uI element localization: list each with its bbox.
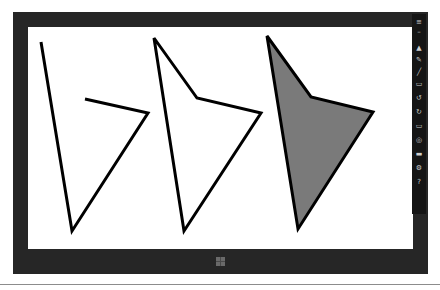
redo-icon[interactable]: ↻: [415, 108, 423, 116]
open-polyline-shape[interactable]: [41, 42, 148, 231]
outlined-polygon-shape[interactable]: [154, 38, 261, 231]
folder-icon[interactable]: ▬: [415, 150, 423, 158]
pen-icon[interactable]: ✎: [415, 56, 423, 64]
shapes-layer: [28, 27, 413, 249]
pointer-icon[interactable]: ▲: [415, 44, 423, 52]
logo-pane: [221, 257, 225, 261]
line-icon[interactable]: ╱: [415, 68, 423, 76]
logo-pane: [216, 257, 220, 261]
minimize-icon[interactable]: –: [415, 28, 423, 36]
shape-icon[interactable]: ▭: [415, 80, 423, 88]
undo-icon[interactable]: ↺: [415, 94, 423, 102]
side-toolbar: ≡ – ▲ ✎ ╱ ▭ ↺ ↻ ▭ ◎ ▬ ⚙ ?: [412, 14, 426, 214]
menu-icon[interactable]: ≡: [415, 18, 423, 26]
logo-pane: [216, 262, 220, 266]
windows-start-icon[interactable]: [216, 257, 225, 266]
filled-polygon-shape[interactable]: [267, 36, 373, 229]
logo-pane: [221, 262, 225, 266]
screen-icon[interactable]: ▭: [415, 122, 423, 130]
divider-line: [0, 284, 440, 285]
help-icon[interactable]: ?: [415, 178, 423, 186]
drawing-canvas[interactable]: [28, 27, 413, 249]
globe-icon[interactable]: ◎: [415, 136, 423, 144]
settings-icon[interactable]: ⚙: [415, 164, 423, 172]
